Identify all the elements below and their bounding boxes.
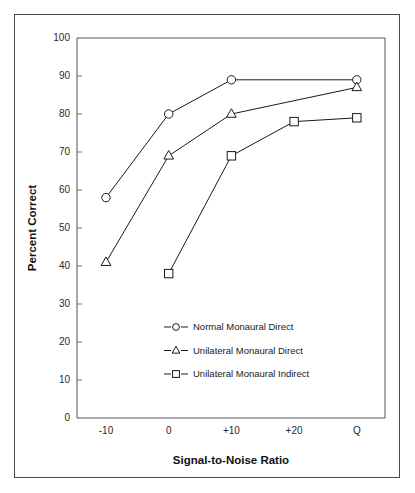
x-axis-title: Signal-to-Noise Ratio [173,454,289,466]
triangle-marker [164,151,174,160]
figure-container: 0102030405060708090100 -100+10+20Q Norma… [0,0,415,493]
triangle-marker [352,82,362,91]
y-tick-label: 30 [59,298,71,309]
x-tick-label: +20 [286,425,303,436]
triangle-marker [172,346,180,353]
series-line [106,80,357,198]
square-marker [353,114,361,122]
legend-item[interactable]: Unilateral Monaural Direct [164,345,303,356]
triangle-marker [101,257,111,266]
y-tick-label: 10 [59,374,71,385]
series-2 [101,82,361,265]
legend-label: Normal Monaural Direct [193,321,294,332]
chart-legend: Normal Monaural DirectUnilateral Monaura… [164,321,310,379]
circle-marker [102,193,110,201]
legend-item[interactable]: Normal Monaural Direct [164,321,294,332]
legend-label: Unilateral Monaural Direct [193,345,303,356]
y-axis-title: Percent Correct [26,185,38,271]
square-marker [173,371,180,378]
x-axis-ticks: -100+10+20Q [99,425,361,436]
line-chart: 0102030405060708090100 -100+10+20Q Norma… [0,0,415,493]
circle-marker [227,76,235,84]
y-tick-label: 80 [59,108,71,119]
y-axis-ticks: 0102030405060708090100 [53,32,82,423]
data-series-group [101,76,361,278]
square-marker [290,117,298,125]
y-tick-label: 0 [64,412,70,423]
x-tick-label: 0 [166,425,172,436]
circle-marker [165,110,173,118]
x-tick-label: -10 [99,425,114,436]
series-line [169,118,357,274]
circle-marker [173,324,180,331]
y-tick-label: 70 [59,146,71,157]
legend-label: Unilateral Monaural Indirect [193,368,310,379]
y-tick-label: 90 [59,70,71,81]
legend-item[interactable]: Unilateral Monaural Indirect [164,368,310,379]
y-tick-label: 20 [59,336,71,347]
square-marker [165,269,173,277]
y-tick-label: 60 [59,184,71,195]
x-tick-label: Q [353,425,361,436]
x-tick-label: +10 [223,425,240,436]
y-tick-label: 50 [59,222,71,233]
series-3 [165,114,362,278]
y-tick-label: 40 [59,260,71,271]
y-tick-label: 100 [53,32,70,43]
axis-lines [77,38,385,418]
square-marker [227,152,235,160]
